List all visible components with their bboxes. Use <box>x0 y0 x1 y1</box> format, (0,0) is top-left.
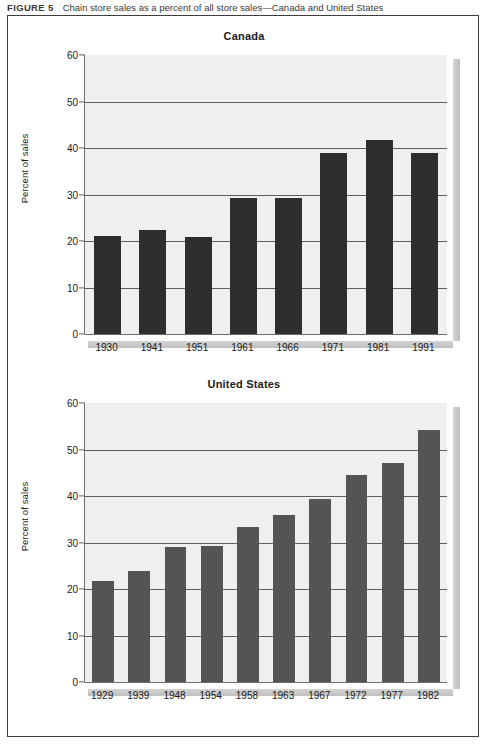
bar <box>92 581 114 682</box>
y-tick-label: 10 <box>67 630 78 641</box>
y-tick-label: 20 <box>67 236 78 247</box>
x-tick-label: 1991 <box>412 342 434 353</box>
bar <box>411 153 438 334</box>
x-tick-label: 1982 <box>417 690 439 701</box>
bar <box>237 527 259 682</box>
plot-canvas-canada: 0102030405060 <box>84 55 447 334</box>
bar-series-united-states <box>85 403 447 682</box>
plot-side-shadow <box>453 407 460 689</box>
bar <box>346 475 368 682</box>
x-tick-label: 1977 <box>381 690 403 701</box>
y-axis-label-canada: Percent of sales <box>19 109 30 229</box>
y-tick-label: 0 <box>72 677 78 688</box>
figure-caption: FIGURE 5 Chain store sales as a percent … <box>7 0 383 14</box>
x-tick-label: 1981 <box>367 342 389 353</box>
bar <box>320 153 347 334</box>
y-tick-label: 50 <box>67 96 78 107</box>
bar <box>201 546 223 682</box>
x-tick-label: 1958 <box>236 690 258 701</box>
y-tick-label: 50 <box>67 444 78 455</box>
chart-title-united-states: United States <box>8 378 480 390</box>
y-tick-label: 10 <box>67 282 78 293</box>
bar <box>185 237 212 334</box>
y-tick-label: 0 <box>72 329 78 340</box>
bar <box>94 236 121 334</box>
bar <box>309 499 331 682</box>
plot-canvas-united-states: 0102030405060 <box>84 403 447 682</box>
plot-area-canada: 0102030405060 19301941195119611966197119… <box>84 55 453 341</box>
bar-series-canada <box>85 55 447 334</box>
y-tick-label: 60 <box>67 398 78 409</box>
bar <box>273 515 295 682</box>
x-tick-label: 1941 <box>141 342 163 353</box>
y-tick-label: 30 <box>67 189 78 200</box>
x-tick-label: 1939 <box>127 690 149 701</box>
x-tick-label: 1954 <box>200 690 222 701</box>
figure-number: FIGURE 5 <box>7 2 54 13</box>
bar <box>275 198 302 334</box>
figure-frame: Canada Percent of sales 0102030405060 19… <box>7 15 479 737</box>
y-tick-label: 40 <box>67 491 78 502</box>
chart-united-states: United States Percent of sales 010203040… <box>8 378 480 723</box>
x-tick-label: 1966 <box>277 342 299 353</box>
bar <box>128 571 150 682</box>
x-tick-label: 1951 <box>186 342 208 353</box>
x-tick-label: 1963 <box>272 690 294 701</box>
x-tick-label: 1972 <box>344 690 366 701</box>
bar <box>230 198 257 334</box>
bar <box>165 547 187 682</box>
chart-title-canada: Canada <box>8 30 480 42</box>
bar <box>382 463 404 682</box>
plot-area-united-states: 0102030405060 19291939194819541958196319… <box>84 403 453 689</box>
x-tick-label: 1948 <box>163 690 185 701</box>
y-tick-label: 20 <box>67 584 78 595</box>
bar <box>418 430 440 682</box>
figure-title: Chain store sales as a percent of all st… <box>63 2 384 13</box>
y-axis-label-united-states: Percent of sales <box>19 457 30 577</box>
y-tick-label: 40 <box>67 143 78 154</box>
bar <box>366 140 393 334</box>
x-tick-label: 1971 <box>322 342 344 353</box>
y-tick-label: 30 <box>67 537 78 548</box>
x-tick-label: 1961 <box>231 342 253 353</box>
plot-side-shadow <box>453 59 460 341</box>
chart-canada: Canada Percent of sales 0102030405060 19… <box>8 30 480 375</box>
x-tick-label: 1967 <box>308 690 330 701</box>
x-tick-label: 1930 <box>96 342 118 353</box>
y-tick-label: 60 <box>67 50 78 61</box>
bar <box>139 230 166 334</box>
x-tick-label: 1929 <box>91 690 113 701</box>
